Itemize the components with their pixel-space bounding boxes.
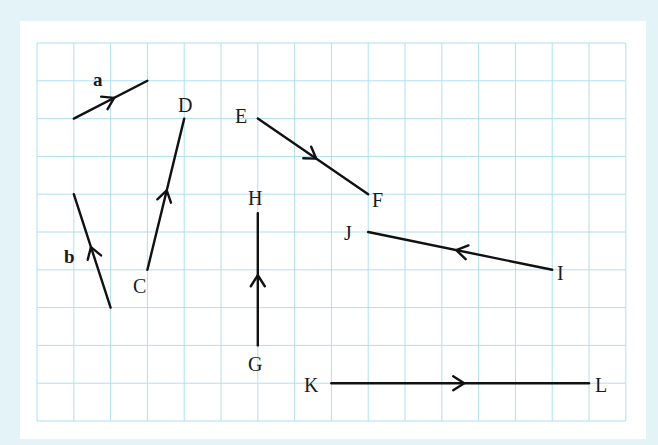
vector-IJ: [368, 232, 552, 270]
label-K: K: [304, 374, 319, 396]
label-F: F: [372, 189, 383, 211]
label-J: J: [344, 222, 352, 244]
label-a: a: [93, 69, 103, 90]
label-H: H: [248, 187, 262, 209]
vector-grid-diagram: a b C D E F G H I J K L: [0, 0, 658, 445]
vector-GH: [251, 213, 265, 345]
vector-KL: [331, 376, 589, 390]
label-I: I: [557, 262, 564, 284]
label-E: E: [235, 105, 247, 127]
label-C: C: [133, 275, 146, 297]
label-G: G: [248, 353, 262, 375]
label-L: L: [595, 374, 607, 396]
label-D: D: [178, 94, 192, 116]
grid: [37, 43, 626, 421]
vector-b: [74, 194, 111, 307]
label-b: b: [64, 246, 75, 267]
